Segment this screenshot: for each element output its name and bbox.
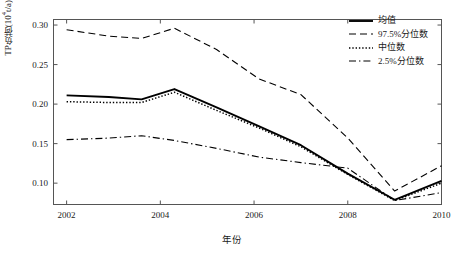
chart-figure: 0.100.150.200.250.30 TP负荷(104t/a) 年份 均值9… <box>0 0 464 257</box>
legend-item[interactable]: 中位数 <box>348 41 428 55</box>
y-axis-title: TP负荷(104t/a) <box>0 0 14 56</box>
x-tick-label: 2008 <box>339 210 357 220</box>
solid-line-key <box>348 16 374 26</box>
legend-item[interactable]: 97.5%分位数 <box>348 28 428 42</box>
y-tick-label: 0.10 <box>18 178 48 188</box>
legend-label: 均值 <box>378 14 396 28</box>
dashdot-line-key <box>348 56 374 66</box>
x-tick-label: 2010 <box>433 210 451 220</box>
y-axis-tick-labels: 0.100.150.200.250.30 <box>14 0 48 257</box>
legend-label: 中位数 <box>378 41 405 55</box>
y-tick-label: 0.25 <box>18 60 48 70</box>
dotted-line-key <box>348 43 374 53</box>
y-axis-exponent: 4 <box>0 12 7 15</box>
x-tick-label: 2006 <box>245 210 263 220</box>
chart-legend: 均值97.5%分位数中位数2.5%分位数 <box>348 14 428 68</box>
y-tick-label: 0.15 <box>18 139 48 149</box>
legend-label: 2.5%分位数 <box>378 55 424 69</box>
legend-item[interactable]: 2.5%分位数 <box>348 55 428 69</box>
x-tick-label: 2004 <box>151 210 169 220</box>
dashed-line-key <box>348 29 374 39</box>
legend-label: 97.5%分位数 <box>378 28 428 42</box>
legend-item[interactable]: 均值 <box>348 14 428 28</box>
x-axis-title: 年份 <box>0 232 464 246</box>
y-tick-label: 0.20 <box>18 99 48 109</box>
y-tick-label: 0.30 <box>18 20 48 30</box>
x-tick-label: 2002 <box>58 210 76 220</box>
